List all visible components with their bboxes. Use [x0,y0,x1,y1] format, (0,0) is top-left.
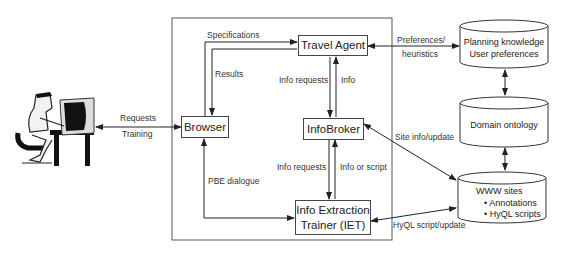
label-specifications: Specifications [207,31,259,40]
infobroker-node: InfoBroker [303,118,364,140]
planning-db-text: Planning knowledge User preferences [460,37,548,60]
iet-node: Info Extraction Trainer (IET) [295,200,371,235]
label-info: Info [341,76,355,85]
label-hyql-script-update: HyQL script/update [393,221,465,230]
label-site-info-update: Site info/update [395,133,454,142]
planning-db-line2: User preferences [460,49,548,61]
label-heuristics: heuristics [402,50,438,59]
www-db-text: WWW sites • Annotations • HyQL scripts [476,186,546,221]
travel-agent-label: Travel Agent [301,38,365,52]
www-db-bullet2: • HyQL scripts [476,209,546,221]
www-db-line1: WWW sites [476,186,546,198]
label-preferences: Preferences/ [397,36,445,45]
iet-label-line1: Info Extraction [296,203,370,217]
travel-agent-node: Travel Agent [298,35,368,56]
iet-label-line2: Trainer (IET) [301,218,366,232]
label-info-or-script: Info or script [340,163,387,172]
label-info-requests-bottom: Info requests [277,163,326,172]
browser-label: Browser [184,120,226,134]
label-pbe-dialogue: PBE dialogue [208,177,260,186]
ontology-db-line1: Domain ontology [460,120,548,132]
planning-db-line1: Planning knowledge [460,37,548,49]
label-results: Results [215,70,243,79]
infobroker-label: InfoBroker [307,122,360,136]
label-requests: Requests [120,114,156,123]
user-at-computer-icon [18,92,94,166]
label-info-requests-top: Info requests [279,76,328,85]
browser-node: Browser [181,116,229,138]
www-db-bullet1: • Annotations [476,198,546,210]
ontology-db-text: Domain ontology [460,120,548,132]
label-training: Training [122,130,152,139]
